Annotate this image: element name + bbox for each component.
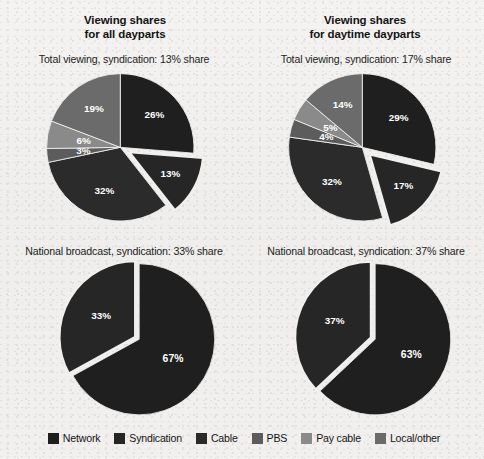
pie-slice-label: 26% — [144, 109, 164, 120]
pie-svg: 63%37% — [288, 258, 468, 430]
legend-item-local-other[interactable]: Local/other — [375, 432, 440, 444]
legend: Network Syndication Cable PBS Pay cable … — [0, 432, 484, 444]
legend-label: Network — [63, 432, 100, 444]
legend-label: Local/other — [390, 432, 440, 444]
legend-swatch-icon — [114, 433, 125, 444]
column-title-all-dayparts: Viewing shares for all dayparts — [10, 14, 240, 41]
pie-svg: 26%13%32%3%6%19% — [30, 68, 220, 238]
chart-title-national-daytime-dayparts: National broadcast, syndication: 37% sha… — [248, 245, 484, 258]
pie-slice-label: 63% — [401, 349, 422, 360]
legend-swatch-icon — [252, 433, 263, 444]
pie-chart-national-daytime-dayparts: 63%37% — [288, 258, 468, 430]
legend-swatch-icon — [301, 433, 312, 444]
legend-label: PBS — [267, 432, 288, 444]
pie-slice-label: 37% — [325, 315, 345, 326]
legend-swatch-icon — [196, 433, 207, 444]
legend-item-pay-cable[interactable]: Pay cable — [301, 432, 361, 444]
column-title-line1: Viewing shares — [10, 14, 240, 28]
pie-svg: 67%33% — [52, 258, 232, 430]
pie-chart-total-all-dayparts: 26%13%32%3%6%19% — [30, 68, 220, 238]
pie-slice-label: 13% — [160, 168, 180, 179]
pie-slice-label: 19% — [84, 103, 104, 114]
chart-title-national-all-dayparts: National broadcast, syndication: 33% sha… — [6, 245, 242, 258]
column-title-line2: for daytime dayparts — [250, 28, 480, 42]
column-title-daytime-dayparts: Viewing shares for daytime dayparts — [250, 14, 480, 41]
legend-swatch-icon — [375, 433, 386, 444]
pie-slice-label: 14% — [333, 99, 353, 110]
chart-title-total-daytime-dayparts: Total viewing, syndication: 17% share — [248, 53, 484, 66]
legend-swatch-icon — [48, 433, 59, 444]
pie-slice-label: 32% — [322, 176, 342, 187]
legend-label: Pay cable — [316, 432, 361, 444]
legend-item-network[interactable]: Network — [48, 432, 100, 444]
pie-chart-total-daytime-dayparts: 29%17%32%4%5%14% — [272, 68, 462, 238]
legend-label: Syndication — [129, 432, 182, 444]
column-title-line2: for all dayparts — [10, 28, 240, 42]
legend-item-syndication[interactable]: Syndication — [114, 432, 182, 444]
pie-slice-label: 6% — [77, 135, 92, 146]
pie-slice-label: 67% — [163, 353, 184, 364]
pie-svg: 29%17%32%4%5%14% — [272, 68, 462, 238]
pie-slice-label: 17% — [393, 180, 413, 191]
figure-canvas: Viewing shares for all dayparts Viewing … — [0, 0, 484, 459]
chart-title-total-all-dayparts: Total viewing, syndication: 13% share — [6, 53, 242, 66]
column-title-line1: Viewing shares — [250, 14, 480, 28]
legend-item-cable[interactable]: Cable — [196, 432, 238, 444]
pie-slice-label: 33% — [91, 310, 111, 321]
pie-slice-label: 32% — [94, 185, 114, 196]
pie-slice-label: 29% — [389, 112, 409, 123]
legend-item-pbs[interactable]: PBS — [252, 432, 288, 444]
legend-label: Cable — [211, 432, 238, 444]
pie-chart-national-all-dayparts: 67%33% — [52, 258, 232, 430]
